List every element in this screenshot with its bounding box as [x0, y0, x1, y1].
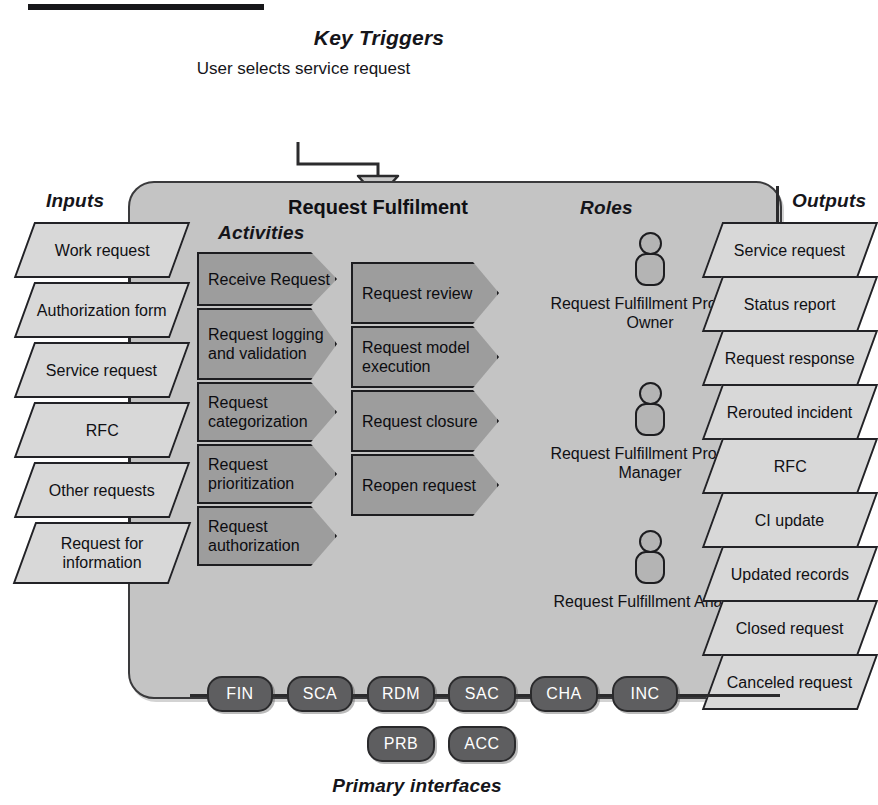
activity-item-label: Request categorization	[208, 393, 335, 431]
interface-pill-label: SAC	[465, 685, 499, 703]
input-item[interactable]: Work request	[14, 222, 190, 278]
diagram-canvas: Key Triggers User selects service reques…	[0, 0, 878, 805]
interface-pill-label: RDM	[382, 685, 420, 703]
person-body-icon	[635, 551, 665, 584]
activity-item[interactable]: Request authorization	[197, 506, 337, 566]
interface-pill[interactable]: ACC	[448, 726, 516, 762]
person-body-icon	[635, 403, 665, 436]
person-head-icon	[639, 530, 662, 553]
output-item[interactable]: Rerouted incident	[702, 384, 878, 440]
output-item[interactable]: Service request	[702, 222, 878, 278]
interface-pill[interactable]: SAC	[448, 676, 516, 712]
interface-pill[interactable]: SCA	[287, 676, 353, 712]
person-body-icon	[635, 253, 665, 286]
trigger-description: User selects service request	[196, 58, 411, 80]
interface-pill-label: FIN	[226, 685, 253, 703]
trigger-description-label: User selects service request	[197, 59, 411, 78]
output-item-label: Canceled request	[723, 673, 856, 692]
outputs-heading: Outputs	[792, 190, 866, 212]
interface-pill[interactable]: INC	[612, 676, 678, 712]
activity-item[interactable]: Request closure	[351, 390, 499, 452]
interface-pill[interactable]: FIN	[207, 676, 273, 712]
output-item-label: Service request	[730, 241, 849, 260]
person-icon	[635, 530, 665, 584]
key-triggers-heading: Key Triggers	[0, 26, 878, 50]
primary-interfaces-heading: Primary interfaces	[0, 775, 878, 797]
input-item[interactable]: Other requests	[14, 462, 190, 518]
activity-item-label: Receive Request	[208, 270, 330, 289]
person-head-icon	[639, 232, 662, 255]
output-item-label: CI update	[751, 511, 828, 530]
activity-item-label: Request review	[362, 284, 472, 303]
output-item[interactable]: Canceled request	[702, 654, 878, 710]
interface-pill[interactable]: CHA	[530, 676, 598, 712]
roles-heading: Roles	[580, 197, 633, 219]
output-item[interactable]: Closed request	[702, 600, 878, 656]
output-item[interactable]: Status report	[702, 276, 878, 332]
interface-pill-label: SCA	[303, 685, 337, 703]
activity-item-label: Request logging and validation	[208, 325, 335, 363]
input-item-label: Other requests	[45, 481, 159, 500]
top-rule-decoration	[28, 4, 264, 10]
activity-item[interactable]: Reopen request	[351, 454, 499, 516]
input-item-label: Work request	[51, 241, 154, 260]
input-item-label: Authorization form	[33, 301, 171, 320]
output-item[interactable]: CI update	[702, 492, 878, 548]
interface-pill-label: ACC	[464, 735, 499, 753]
interface-pill-label: INC	[630, 685, 659, 703]
output-item[interactable]: RFC	[702, 438, 878, 494]
activity-item[interactable]: Request model execution	[351, 326, 499, 388]
interface-pill-label: PRB	[384, 735, 418, 753]
person-icon	[635, 382, 665, 436]
output-item-label: Rerouted incident	[723, 403, 856, 422]
output-item[interactable]: Request response	[702, 330, 878, 386]
input-item-label: Service request	[42, 361, 161, 380]
activity-item[interactable]: Request categorization	[197, 382, 337, 442]
output-item-label: RFC	[770, 457, 811, 476]
output-item-label: Updated records	[727, 565, 853, 584]
activity-item[interactable]: Request review	[351, 262, 499, 324]
activity-item-label: Request model execution	[362, 338, 497, 376]
page-title: Request Fulfilment	[128, 196, 628, 219]
activity-item-label: Reopen request	[362, 476, 476, 495]
key-triggers-heading-label: Key Triggers	[314, 26, 444, 50]
output-item[interactable]: Updated records	[702, 546, 878, 602]
input-item[interactable]: Authorization form	[14, 282, 190, 338]
input-item[interactable]: RFC	[14, 402, 190, 458]
input-item-label: RFC	[82, 421, 123, 440]
activity-item-label: Request closure	[362, 412, 478, 431]
input-item[interactable]: Service request	[14, 342, 190, 398]
activities-heading: Activities	[218, 222, 304, 244]
interface-pill-label: CHA	[546, 685, 581, 703]
primary-interfaces-label: Primary interfaces	[332, 775, 501, 797]
activity-item[interactable]: Request prioritization	[197, 444, 337, 504]
input-item[interactable]: Request for information	[13, 522, 192, 584]
output-item-label: Request response	[721, 349, 859, 368]
activity-item[interactable]: Request logging and validation	[197, 308, 337, 380]
input-item-label: Request for information	[26, 534, 178, 572]
interface-pill[interactable]: RDM	[367, 676, 435, 712]
person-head-icon	[639, 382, 662, 405]
activity-item[interactable]: Receive Request	[197, 252, 337, 306]
output-item-label: Status report	[740, 295, 840, 314]
inputs-heading: Inputs	[46, 190, 104, 212]
activity-item-label: Request authorization	[208, 517, 335, 555]
person-icon	[635, 232, 665, 286]
activity-item-label: Request prioritization	[208, 455, 335, 493]
interface-pill[interactable]: PRB	[367, 726, 435, 762]
output-item-label: Closed request	[732, 619, 848, 638]
